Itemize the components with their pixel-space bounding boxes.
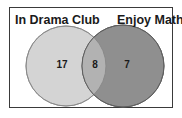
set-label-enjoy-math: Enjoy Math xyxy=(117,13,182,27)
drama-only-count: 17 xyxy=(56,59,67,70)
set-label-drama-club: In Drama Club xyxy=(15,13,100,27)
math-only-count: 7 xyxy=(124,59,130,70)
intersection-count: 8 xyxy=(92,59,98,70)
